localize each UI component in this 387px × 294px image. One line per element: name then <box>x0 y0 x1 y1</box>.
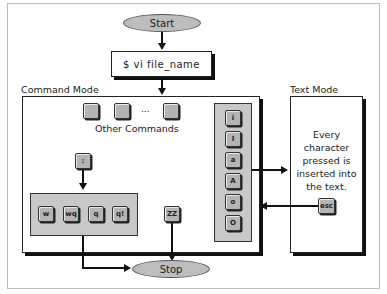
start-node: Start <box>123 14 201 32</box>
connector-zz-to-stop <box>171 223 173 256</box>
insert-key-I: I <box>225 131 241 147</box>
insert-key-O: O <box>225 215 241 231</box>
arrow-right-icon <box>124 264 131 272</box>
connector-esc-to-command <box>266 205 318 207</box>
text-mode-description: Every character pressed is inserted into… <box>292 128 361 193</box>
arrow-down-icon <box>79 183 87 190</box>
start-label: Start <box>150 18 174 29</box>
connector-insert-to-text <box>252 169 282 171</box>
exit-key-w: w <box>38 206 54 222</box>
exit-key-q-bang: q! <box>112 206 128 222</box>
insert-key-a: a <box>225 152 241 168</box>
stop-node: Stop <box>132 260 210 278</box>
insert-key-o: o <box>225 194 241 210</box>
insert-key-A: A <box>225 173 241 189</box>
other-command-key <box>83 103 99 119</box>
exit-key-wq: wq <box>63 206 79 222</box>
arrow-right-icon <box>281 166 288 174</box>
other-commands-label: Other Commands <box>95 123 179 134</box>
insert-key-i: i <box>225 110 241 126</box>
connector-exit-down <box>82 236 84 269</box>
other-command-key <box>163 103 179 119</box>
exit-key-q: q <box>88 206 104 222</box>
other-command-key <box>114 103 130 119</box>
arrow-down-icon <box>158 43 166 50</box>
text-mode-title: Text Mode <box>290 84 338 95</box>
stop-label: Stop <box>160 264 183 275</box>
ellipsis: ... <box>141 104 150 114</box>
command-mode-title: Command Mode <box>21 84 99 95</box>
esc-key: esc <box>318 198 335 214</box>
zz-key: ZZ <box>164 206 180 222</box>
vi-command-box: $ vi file_name <box>111 51 212 77</box>
vi-command-text: $ vi file_name <box>123 59 200 70</box>
connector-exit-to-stop <box>82 267 125 269</box>
connector-colon-to-exit <box>82 170 84 184</box>
arrow-left-icon <box>260 202 267 210</box>
colon-key: : <box>75 153 91 169</box>
arrow-down-icon <box>158 88 166 95</box>
